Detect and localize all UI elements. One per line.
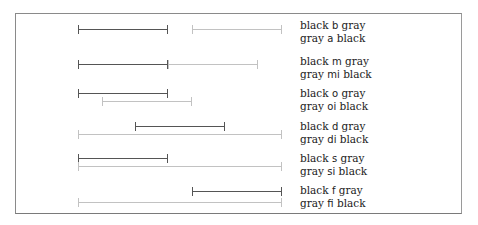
- interval-black-b: [78, 29, 168, 30]
- interval-gray-oi: [102, 101, 192, 102]
- relation-text-line: gray fi black: [300, 197, 366, 210]
- relation-label-s: black s graygray si black: [300, 152, 367, 178]
- interval-black-d: [135, 126, 225, 127]
- interval-gray-di: [78, 134, 282, 135]
- relation-label-b: black b graygray a black: [300, 19, 366, 45]
- relation-label-d: black d graygray di black: [300, 120, 368, 146]
- interval-black-f: [192, 191, 282, 192]
- interval-gray-a: [192, 29, 282, 30]
- relation-text-line: gray oi black: [300, 100, 368, 113]
- relation-symbol: mi: [327, 69, 340, 80]
- relation-label-m: black m graygray mi black: [300, 55, 372, 81]
- interval-black-o: [78, 93, 168, 94]
- relation-text-line: black d gray: [300, 120, 368, 133]
- relation-text-line: black b gray: [300, 19, 366, 32]
- relation-symbol: oi: [327, 101, 336, 112]
- relation-text-line: gray si black: [300, 165, 367, 178]
- relation-label-o: black o graygray oi black: [300, 87, 368, 113]
- interval-gray-mi: [168, 64, 258, 65]
- interval-gray-fi: [78, 202, 282, 203]
- relation-text-line: black s gray: [300, 152, 367, 165]
- relation-text-line: black o gray: [300, 87, 368, 100]
- interval-black-m: [78, 64, 168, 65]
- interval-black-s: [78, 158, 168, 159]
- relation-text-line: black f gray: [300, 184, 366, 197]
- relation-label-f: black f graygray fi black: [300, 184, 366, 210]
- relation-text-line: black m gray: [300, 55, 372, 68]
- relation-text-line: gray di black: [300, 133, 368, 146]
- relation-symbol: m: [332, 56, 342, 67]
- interval-gray-si: [78, 166, 282, 167]
- relation-text-line: gray a black: [300, 32, 366, 45]
- relation-text-line: gray mi black: [300, 68, 372, 81]
- diagram-frame: [15, 13, 462, 214]
